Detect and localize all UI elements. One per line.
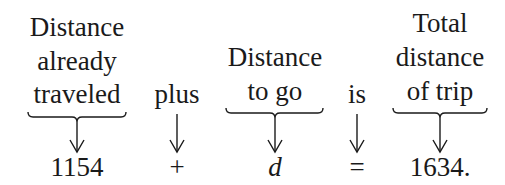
label-line: Distance bbox=[228, 42, 322, 73]
value-plus-sign: + bbox=[169, 152, 184, 183]
brace-already-traveled bbox=[28, 112, 126, 122]
label-line: already bbox=[37, 46, 116, 77]
label-line: to go bbox=[248, 76, 303, 107]
value-distance-traveled: 1154 bbox=[51, 152, 104, 183]
value-equals-sign: = bbox=[349, 152, 364, 183]
brace-distance-to-go bbox=[226, 108, 323, 118]
value-total-distance: 1634. bbox=[410, 152, 471, 183]
label-line: traveled bbox=[34, 79, 121, 110]
label-plus: plus bbox=[154, 79, 199, 110]
brace-total-distance bbox=[393, 108, 487, 118]
label-line: Distance bbox=[30, 12, 124, 43]
label-line: Total bbox=[412, 8, 467, 39]
label-line: of trip bbox=[407, 76, 474, 107]
label-line: distance bbox=[396, 42, 484, 73]
label-is: is bbox=[348, 79, 366, 110]
value-variable-d: d bbox=[268, 152, 282, 183]
